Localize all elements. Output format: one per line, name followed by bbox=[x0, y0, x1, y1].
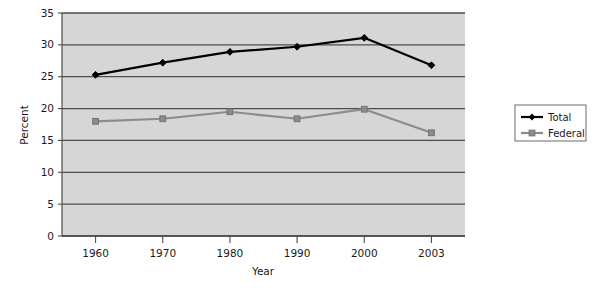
data-point-marker bbox=[429, 130, 435, 136]
x-tick-label: 1980 bbox=[217, 247, 244, 259]
y-tick-label: 35 bbox=[41, 7, 54, 19]
data-point-marker bbox=[160, 116, 166, 122]
x-tick-label: 1970 bbox=[149, 247, 176, 259]
x-tick-label: 2003 bbox=[418, 247, 445, 259]
y-tick-label: 15 bbox=[41, 134, 54, 146]
x-axis-ticks: 196019701980199020002003 bbox=[62, 236, 465, 259]
y-axis-ticks: 05101520253035 bbox=[41, 7, 62, 242]
x-axis-title: Year bbox=[251, 265, 275, 277]
x-tick-label: 2000 bbox=[351, 247, 378, 259]
x-tick-label: 1990 bbox=[284, 247, 311, 259]
y-tick-label: 25 bbox=[41, 70, 54, 82]
data-point-marker bbox=[227, 109, 233, 115]
legend-label-federal: Federal bbox=[548, 128, 585, 139]
y-tick-label: 0 bbox=[47, 230, 54, 242]
legend-label-total: Total bbox=[547, 112, 571, 123]
y-tick-label: 5 bbox=[47, 198, 54, 210]
legend-marker-federal bbox=[529, 130, 535, 136]
data-point-marker bbox=[361, 106, 367, 112]
chart-legend: TotalFederal bbox=[515, 105, 586, 141]
y-tick-label: 10 bbox=[41, 166, 54, 178]
data-point-marker bbox=[93, 118, 99, 124]
x-tick-label: 1960 bbox=[82, 247, 109, 259]
y-axis-title: Percent bbox=[18, 105, 30, 145]
data-point-marker bbox=[294, 116, 300, 122]
line-chart: 05101520253035 196019701980199020002003 … bbox=[0, 0, 603, 288]
chart-container: 05101520253035 196019701980199020002003 … bbox=[0, 0, 603, 288]
y-tick-label: 30 bbox=[41, 38, 54, 50]
y-tick-label: 20 bbox=[41, 102, 54, 114]
